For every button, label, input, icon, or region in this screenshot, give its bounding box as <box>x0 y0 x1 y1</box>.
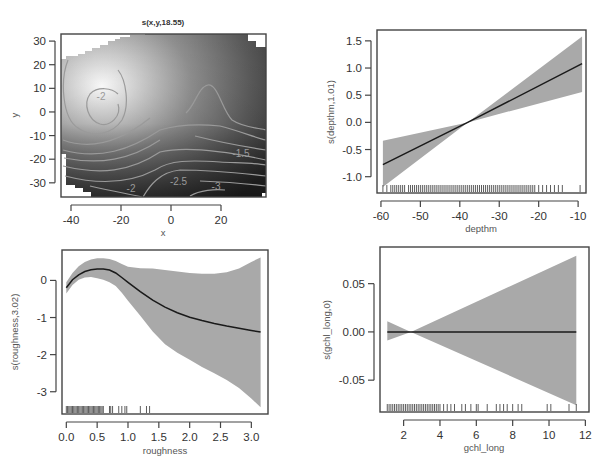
confidence-band <box>387 256 576 406</box>
y-tick-label: 0.5 <box>346 89 362 101</box>
y-tick-label: -30 <box>29 177 46 189</box>
y-tick-label: -0.5 <box>342 144 362 156</box>
y-tick-label: 20 <box>33 59 46 71</box>
y-tick-label: 0 <box>40 106 46 118</box>
contour-label: -2 <box>97 91 106 102</box>
y-tick-label: -0.05 <box>339 374 365 386</box>
panel-xy-heatmap: s(x,y,18.55) -2-1.5-2-2.5-3 -4 <box>9 18 266 238</box>
x-tick-label: 6 <box>473 429 479 441</box>
confidence-band <box>383 37 582 188</box>
x-tick-label: 2 <box>400 429 406 441</box>
y-tick-label: -10 <box>29 130 46 142</box>
y-tick-label: 0.0 <box>346 116 362 128</box>
y-tick-label: 0.05 <box>343 278 365 290</box>
x-tick-label: 2.0 <box>182 431 198 443</box>
x-tick-label: -50 <box>412 210 429 222</box>
panel-roughness: roughness s(roughness,3.02) 0.00.51.01.5… <box>9 250 268 456</box>
x-tick-label: 3.0 <box>243 431 259 443</box>
plot-frame <box>377 30 586 193</box>
x-tick-label: -40 <box>63 214 80 226</box>
x-tick-label: 0.0 <box>58 431 74 443</box>
y-axis-label: s(roughness,3.02) <box>9 294 20 371</box>
y-axis-label: s(gchl_long,0) <box>321 300 332 360</box>
fitted-line <box>383 64 582 165</box>
x-tick-label: 10 <box>543 429 556 441</box>
panel-title: s(x,y,18.55) <box>142 18 185 27</box>
x-axis-label: x <box>161 227 166 238</box>
x-tick-label: 0 <box>168 214 174 226</box>
y-tick-label: 0 <box>41 274 47 286</box>
x-tick-label: 12 <box>579 429 592 441</box>
x-axis-label: roughness <box>143 445 188 456</box>
confidence-band <box>66 257 260 407</box>
panel-depthm: depthm s(depthm,1.01) -60-50-40-30-20-10… <box>325 30 586 234</box>
x-axis-label: gchl_long <box>464 442 505 453</box>
gam-figure: s(x,y,18.55) -2-1.5-2-2.5-3 -4 <box>0 0 609 470</box>
x-tick-label: 8 <box>509 429 515 441</box>
contour-label: -1.5 <box>232 148 250 159</box>
x-tick-label: -10 <box>570 210 587 222</box>
y-tick-label: -20 <box>29 153 46 165</box>
x-tick-label: 2.5 <box>213 431 229 443</box>
x-tick-label: 1.0 <box>120 431 136 443</box>
contour-label: -2.5 <box>170 176 188 187</box>
x-tick-label: -20 <box>530 210 547 222</box>
contour-label: -3 <box>212 181 221 192</box>
y-tick-label: -2 <box>37 349 47 361</box>
contour-label: -2 <box>127 183 136 194</box>
x-tick-label: 1.5 <box>151 431 167 443</box>
y-tick-label: 30 <box>33 35 46 47</box>
y-axis-label: s(depthm,1.01) <box>325 80 336 144</box>
x-tick-label: -30 <box>491 210 508 222</box>
y-tick-label: -1.0 <box>342 171 362 183</box>
y-axis-label: y <box>9 112 20 117</box>
x-tick-label: -60 <box>373 210 390 222</box>
panel-gchl-long: gchl_long s(gchl_long,0) 24681012-0.050.… <box>321 247 592 453</box>
y-tick-label: -3 <box>37 386 47 398</box>
x-axis-label: depthm <box>465 223 497 234</box>
y-tick-label: 1.0 <box>346 62 362 74</box>
y-tick-label: 1.5 <box>346 35 362 47</box>
x-tick-label: 0.5 <box>89 431 105 443</box>
x-tick-label: -20 <box>113 214 130 226</box>
x-tick-label: 20 <box>215 214 228 226</box>
y-tick-label: 0.00 <box>343 326 365 338</box>
x-tick-label: -40 <box>451 210 468 222</box>
x-tick-label: 4 <box>437 429 444 441</box>
y-tick-label: -1 <box>37 312 47 324</box>
y-tick-label: 10 <box>33 82 46 94</box>
